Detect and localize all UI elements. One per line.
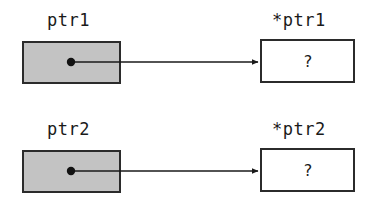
pointer-label-ptr1: ptr1	[47, 12, 90, 29]
target-value-ptr1: ?	[303, 54, 313, 70]
pointer-box-ptr1	[22, 41, 121, 84]
pointer-box-ptr2	[22, 150, 121, 193]
target-value-ptr2: ?	[303, 163, 313, 179]
pointer-diagram: ptr1 *ptr1 ? ptr2 *ptr2 ?	[0, 0, 378, 200]
pointer-label-ptr2: ptr2	[47, 121, 90, 138]
target-label-ptr1: *ptr1	[272, 12, 326, 29]
target-label-ptr2: *ptr2	[272, 121, 326, 138]
